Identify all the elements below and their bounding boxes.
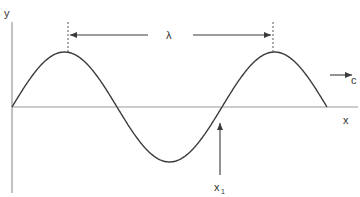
x-axis-label: x	[343, 114, 349, 126]
velocity-label: c	[351, 74, 357, 86]
point-label: x	[214, 181, 220, 193]
y-axis-label: y	[4, 7, 10, 19]
point-label-subscript: 1	[221, 188, 225, 195]
wavelength-label: λ	[166, 29, 172, 41]
wave-diagram: y x λ c x 1	[0, 0, 360, 197]
